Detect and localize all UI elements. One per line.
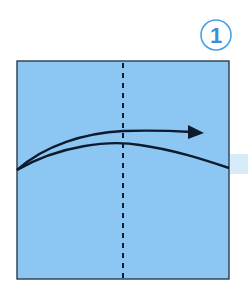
step-number: 1 — [210, 23, 222, 48]
origami-step-diagram: 1 — [0, 0, 248, 297]
step-badge: 1 — [201, 20, 231, 50]
